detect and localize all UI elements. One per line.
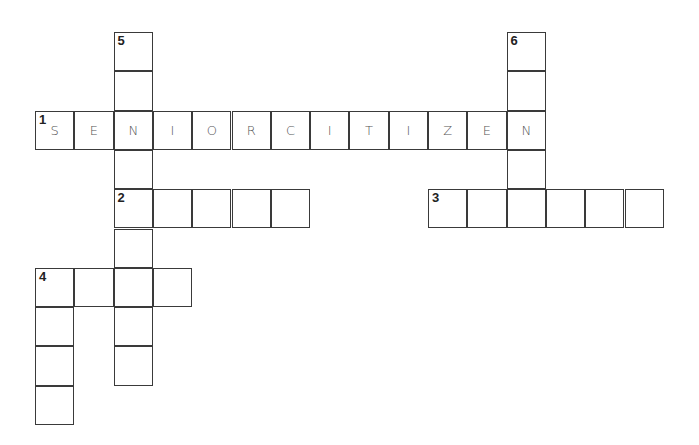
crossword-cell[interactable]: C <box>271 111 310 150</box>
crossword-cell[interactable]: 6 <box>507 32 546 71</box>
crossword-cell[interactable] <box>507 150 546 189</box>
clue-number: 3 <box>432 190 439 205</box>
crossword-cell[interactable]: E <box>74 111 113 150</box>
crossword-cell[interactable] <box>467 189 506 228</box>
clue-number: 6 <box>511 33 518 48</box>
clue-number: 5 <box>118 33 125 48</box>
crossword-cell[interactable] <box>35 307 74 346</box>
crossword-cell[interactable] <box>114 346 153 385</box>
crossword-cell[interactable] <box>153 189 192 228</box>
crossword-cell[interactable]: O <box>192 111 231 150</box>
crossword-cell[interactable] <box>114 71 153 110</box>
crossword-cell[interactable] <box>232 189 271 228</box>
crossword-cell[interactable]: Z <box>428 111 467 150</box>
cell-letter: N <box>128 123 138 138</box>
cell-letter: S <box>51 123 59 138</box>
crossword-cell[interactable] <box>546 189 585 228</box>
cell-letter: Z <box>443 123 452 138</box>
crossword-cell[interactable]: N <box>114 111 153 150</box>
crossword-cell[interactable] <box>35 386 74 425</box>
crossword-cell[interactable]: N <box>507 111 546 150</box>
cell-letter: O <box>207 123 217 138</box>
crossword-cell[interactable] <box>114 150 153 189</box>
crossword-cell[interactable] <box>507 189 546 228</box>
cell-letter: I <box>406 123 410 138</box>
cell-letter: C <box>286 123 295 138</box>
cell-letter: T <box>365 123 373 138</box>
crossword-cell[interactable] <box>114 307 153 346</box>
crossword-cell[interactable] <box>114 268 153 307</box>
clue-number: 4 <box>39 269 46 284</box>
crossword-cell[interactable]: 3 <box>428 189 467 228</box>
crossword-cell[interactable]: 5 <box>114 32 153 71</box>
crossword-cell[interactable] <box>585 189 624 228</box>
crossword-cell[interactable] <box>507 71 546 110</box>
crossword-cell[interactable]: I <box>310 111 349 150</box>
crossword-grid: 1SENIORCITIZEN23456 <box>0 0 699 445</box>
cell-letter: I <box>328 123 332 138</box>
cell-letter: I <box>171 123 175 138</box>
crossword-cell[interactable]: T <box>349 111 388 150</box>
crossword-cell[interactable]: 2 <box>114 189 153 228</box>
crossword-cell[interactable] <box>35 346 74 385</box>
crossword-cell[interactable]: 1S <box>35 111 74 150</box>
clue-number: 2 <box>118 190 125 205</box>
clue-number: 1 <box>39 112 46 127</box>
crossword-cell[interactable]: E <box>467 111 506 150</box>
cell-letter: E <box>90 123 98 138</box>
crossword-cell[interactable] <box>271 189 310 228</box>
crossword-cell[interactable]: I <box>389 111 428 150</box>
cell-letter: R <box>247 123 256 138</box>
crossword-cell[interactable] <box>192 189 231 228</box>
cell-letter: N <box>521 123 531 138</box>
crossword-cell[interactable] <box>74 268 113 307</box>
crossword-cell[interactable] <box>114 229 153 268</box>
crossword-cell[interactable]: I <box>153 111 192 150</box>
crossword-cell[interactable] <box>625 189 664 228</box>
crossword-cell[interactable] <box>153 268 192 307</box>
cell-letter: E <box>483 123 491 138</box>
crossword-cell[interactable]: R <box>232 111 271 150</box>
crossword-cell[interactable]: 4 <box>35 268 74 307</box>
